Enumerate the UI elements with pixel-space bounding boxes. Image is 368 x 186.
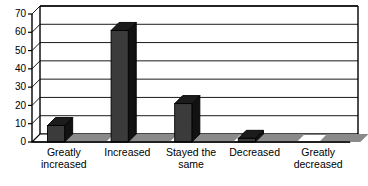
gridline-depth-30: [32, 79, 40, 87]
bar-front-face-2: [175, 104, 192, 142]
bar-chart: 010203040506070GreatlyincreasedIncreased…: [0, 0, 368, 186]
bar-side-face-1: [128, 22, 136, 142]
bar-front-face-1: [111, 30, 128, 142]
gridline-depth-50: [32, 43, 40, 51]
xtick-label-1: Increased: [104, 146, 150, 158]
ytick-label-20: 20: [15, 100, 27, 111]
xtick-label-2-line-0: Stayed the: [166, 146, 216, 158]
gridline-depth-60: [32, 24, 40, 32]
chart-canvas: 010203040506070GreatlyincreasedIncreased…: [0, 0, 368, 186]
ytick-label-50: 50: [15, 45, 27, 56]
ytick-label-60: 60: [15, 26, 27, 37]
ytick-label-0: 0: [20, 136, 26, 147]
bar-group-4: [319, 134, 368, 142]
xtick-label-4-line-0: Greatly: [301, 146, 336, 158]
gridline-depth-40: [32, 61, 40, 69]
xtick-label-0-line-1: increased: [41, 158, 87, 170]
ytick-label-10: 10: [15, 118, 27, 129]
bar-front-face-0: [47, 126, 64, 142]
gridline-depth-70: [32, 6, 40, 14]
ytick-label-40: 40: [15, 63, 27, 74]
ytick-label-30: 30: [15, 81, 27, 92]
xtick-label-4-line-1: decreased: [294, 158, 343, 170]
floor-strip-4: [319, 134, 368, 142]
xtick-label-3: Decreased: [229, 146, 280, 158]
xtick-label-2-line-1: same: [178, 158, 204, 170]
gridline-depth-20: [32, 97, 40, 105]
gridline-depth-10: [32, 116, 40, 124]
xtick-label-0-line-0: Greatly: [47, 146, 82, 158]
ytick-label-70: 70: [15, 8, 27, 19]
